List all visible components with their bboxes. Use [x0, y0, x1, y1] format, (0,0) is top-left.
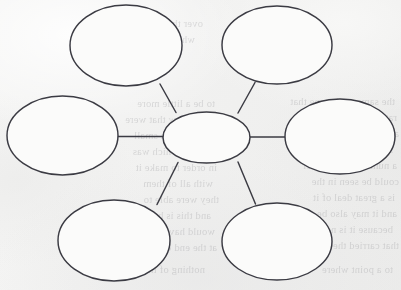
bubble-middle-left[interactable]: [7, 96, 118, 175]
hub-bubble-center[interactable]: [163, 112, 250, 163]
node-top-right[interactable]: [222, 6, 332, 84]
hub-node-center[interactable]: [163, 112, 250, 163]
connector-hub-to-top-right: [238, 83, 255, 114]
node-middle-left[interactable]: [7, 96, 118, 175]
bubble-bottom-right[interactable]: [222, 203, 332, 280]
connector-hub-to-bottom-right: [238, 162, 256, 204]
connector-hub-to-bottom-left: [157, 163, 178, 205]
concept-map-diagram: [0, 0, 401, 290]
bubble-top-left[interactable]: [70, 5, 182, 86]
connector-hub-to-top-left: [160, 84, 176, 113]
bubble-top-right[interactable]: [222, 6, 332, 84]
bubble-bottom-left[interactable]: [58, 200, 170, 281]
node-bottom-left[interactable]: [58, 200, 170, 281]
node-bottom-right[interactable]: [222, 203, 332, 280]
node-middle-right[interactable]: [285, 99, 395, 174]
node-top-left[interactable]: [70, 5, 182, 86]
concept-map-worksheet: the same as the one thatrather than the …: [0, 0, 401, 290]
bubble-middle-right[interactable]: [285, 99, 395, 174]
hub-layer: [163, 112, 250, 163]
